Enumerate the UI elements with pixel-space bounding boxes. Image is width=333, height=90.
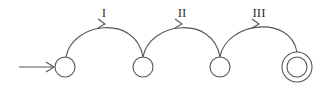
transition-iii: III (220, 5, 297, 57)
state-accepting (282, 52, 312, 82)
state-diagram: I II III (0, 0, 333, 90)
transition-label-i: I (102, 5, 106, 20)
transition-ii: II (143, 5, 220, 57)
transition-i: I (66, 5, 143, 57)
transition-label-ii: II (178, 5, 187, 20)
state-1 (133, 57, 153, 77)
state-initial (55, 57, 75, 77)
start-arrow (19, 62, 54, 72)
state-2 (210, 57, 230, 77)
accepting-inner-ring (287, 57, 307, 77)
transition-label-iii: III (253, 5, 266, 20)
